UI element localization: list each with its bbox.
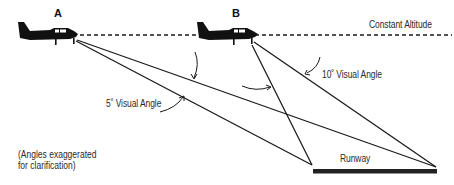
airplane-b-icon: [197, 22, 258, 45]
constant-altitude-label: Constant Altitude: [369, 19, 432, 30]
five-degree-angle-label: 5˚ Visual Angle: [106, 98, 161, 109]
visual-angle-diagram: A B Constant Altitude 10˚ Visual Angle 5…: [0, 0, 454, 185]
note-line-2: for clarification): [18, 160, 96, 171]
airplane-a-icon: [18, 22, 78, 45]
airplane-a-label: A: [54, 7, 62, 19]
runway-label: Runway: [340, 153, 370, 164]
airplane-b-label: B: [232, 7, 240, 19]
runway-bar: [313, 169, 437, 174]
ten-degree-angle-label: 10˚ Visual Angle: [322, 69, 382, 80]
arrow-b-near-icon: [242, 86, 270, 89]
arrow-5deg-icon: [160, 97, 183, 112]
note-line-1: (Angles exaggerated: [18, 149, 96, 160]
arrow-10deg-icon: [307, 57, 320, 73]
angle-arrows: [160, 52, 320, 112]
exaggeration-note: (Angles exaggerated for clarification): [18, 149, 96, 171]
